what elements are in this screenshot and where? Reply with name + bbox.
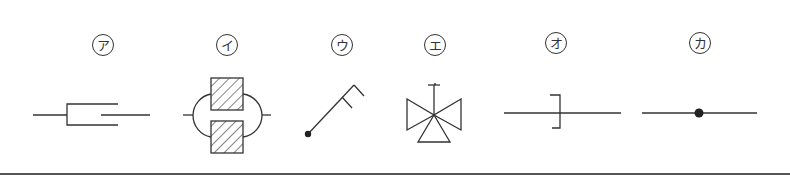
bottom-rule — [0, 173, 790, 175]
blind-flange-icon — [504, 95, 621, 128]
three-way-valve-icon — [407, 84, 461, 142]
symbols-canvas — [0, 0, 790, 176]
junction-dot-icon — [695, 109, 704, 118]
hose-end-dot-icon — [305, 131, 311, 137]
flexible-joint-icon — [33, 104, 150, 125]
strainer-icon — [183, 78, 271, 153]
hose-reel-icon — [308, 85, 364, 134]
